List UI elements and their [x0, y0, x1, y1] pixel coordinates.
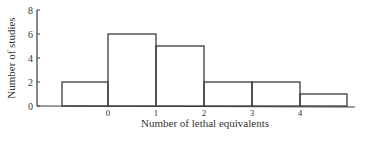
y-tick-label: 6	[28, 29, 33, 40]
histogram-bar	[252, 82, 300, 106]
y-axis: 02468	[28, 5, 40, 112]
histogram-bars	[62, 34, 347, 106]
x-tick-label: 0	[106, 108, 111, 118]
y-tick-label: 4	[28, 53, 33, 64]
histogram-chart: 02468 01234 Number of lethal equivalents…	[0, 0, 366, 141]
histogram-bar	[204, 82, 252, 106]
y-tick-label: 2	[28, 77, 33, 88]
histogram-bar	[156, 46, 204, 106]
histogram-bar	[108, 34, 156, 106]
y-tick-label: 8	[28, 5, 33, 16]
histogram-bar	[62, 82, 108, 106]
x-axis-label: Number of lethal equivalents	[141, 117, 269, 129]
y-tick-label: 0	[28, 101, 33, 112]
histogram-bar	[300, 94, 347, 106]
x-tick-label: 4	[298, 108, 303, 118]
y-axis-label: Number of studies	[5, 17, 17, 98]
